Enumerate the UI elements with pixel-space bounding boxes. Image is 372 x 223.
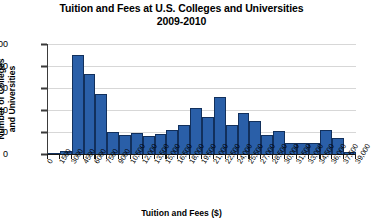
histogram-bar (84, 74, 96, 154)
plot-inner (48, 44, 356, 154)
y-tick-mark (41, 88, 47, 90)
y-tick-label: 0 (0, 150, 8, 159)
y-tick-label: 60 (0, 84, 8, 93)
chart-title: Tuition and Fees at U.S. Colleges and Un… (0, 2, 363, 28)
x-tick-label: 0 (46, 158, 55, 166)
y-tick-mark (41, 132, 47, 134)
y-tick-mark (41, 44, 47, 46)
y-tick-label: 40 (0, 106, 8, 115)
bars-container (48, 44, 356, 154)
plot-area (47, 44, 356, 155)
chart-title-line1: Tuition and Fees at U.S. Colleges and Un… (60, 2, 304, 14)
chart-title-line2: 2009-2010 (0, 15, 363, 28)
y-tick-mark (41, 110, 47, 112)
y-tick-label: 80 (0, 62, 8, 71)
histogram-bar (72, 55, 84, 154)
y-tick-mark (41, 66, 47, 68)
y-tick-label: 100 (0, 40, 8, 49)
histogram-bar (95, 94, 107, 155)
x-axis-title: Tuition and Fees ($) (0, 208, 363, 218)
y-axis-title-line2: and Universities (7, 44, 18, 154)
y-tick-label: 20 (0, 128, 8, 137)
